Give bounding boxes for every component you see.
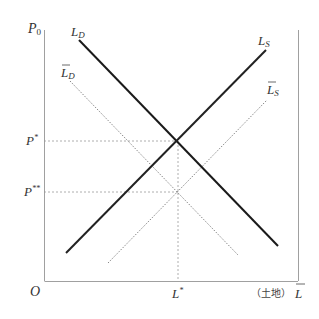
svg-text:LS: LS bbox=[266, 82, 279, 98]
origin-label: O bbox=[30, 284, 40, 299]
p-star-label: P* bbox=[25, 133, 38, 148]
supply-curve bbox=[66, 50, 266, 253]
supply-label: LS bbox=[257, 33, 270, 49]
x-axis-prefix: （土地） bbox=[251, 287, 291, 299]
shifted-demand-label: LD bbox=[60, 65, 75, 81]
y-axis-label: P0 bbox=[27, 21, 42, 37]
x-axis-label: L bbox=[294, 286, 302, 301]
demand-curve bbox=[79, 40, 278, 246]
l-star-label: L* bbox=[171, 286, 183, 301]
p-double-star-label: P** bbox=[23, 184, 40, 199]
supply-demand-diagram: P0 LD LS LD LS P* P** O L* （土地） L bbox=[0, 0, 319, 319]
shifted-supply-curve bbox=[108, 100, 267, 263]
svg-text:LD: LD bbox=[60, 65, 75, 81]
demand-label: LD bbox=[70, 24, 85, 40]
shifted-supply-label: LS bbox=[266, 82, 279, 98]
shifted-demand-curve bbox=[70, 81, 238, 255]
